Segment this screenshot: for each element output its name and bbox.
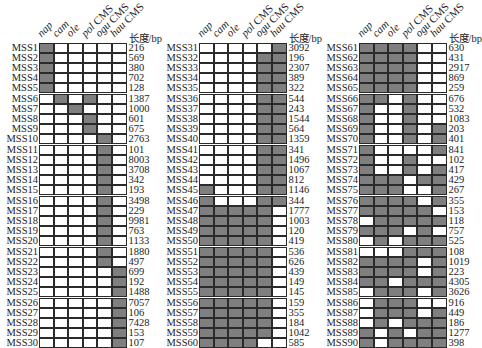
row-label: MSS1 (0, 43, 38, 53)
cell-present (228, 267, 243, 277)
cell-absent (54, 165, 69, 175)
cell-absent (97, 287, 112, 297)
cell-present (374, 43, 389, 53)
cell-present (388, 185, 403, 195)
length-value: 259 (449, 83, 465, 93)
cell-absent (199, 94, 214, 104)
cell-absent (243, 73, 258, 83)
cell-present (243, 328, 258, 338)
cell-absent (374, 328, 389, 338)
cell-absent (243, 175, 258, 185)
cell-absent (214, 185, 229, 195)
cell-absent (68, 277, 83, 287)
cell-absent (54, 43, 69, 53)
cell-absent (68, 175, 83, 185)
cell-absent (417, 63, 432, 73)
cell-present (272, 43, 287, 53)
cell-absent (39, 308, 54, 318)
cell-absent (83, 318, 98, 328)
cell-absent (54, 267, 69, 277)
cell-present (359, 165, 374, 175)
cell-present (228, 338, 243, 348)
cell-absent (272, 338, 287, 348)
cell-absent (243, 196, 258, 206)
cell-present (374, 236, 389, 246)
length-value: 101 (129, 145, 145, 155)
cell-absent (417, 257, 432, 267)
cell-present (374, 267, 389, 277)
cell-present (97, 206, 112, 216)
cell-absent (243, 114, 258, 124)
cell-present (359, 145, 374, 155)
cell-absent (68, 155, 83, 165)
cell-present (403, 267, 418, 277)
cell-present (112, 298, 127, 308)
cell-present (97, 196, 112, 206)
cell-present (97, 165, 112, 175)
cell-absent (359, 287, 374, 297)
cell-absent (54, 63, 69, 73)
cell-present (199, 338, 214, 348)
cell-present (388, 226, 403, 236)
cell-present (257, 53, 272, 63)
cell-absent (68, 308, 83, 318)
length-value: 1359 (289, 134, 310, 144)
cell-present (403, 287, 418, 297)
cell-absent (39, 145, 54, 155)
length-value: 585 (289, 338, 305, 348)
cell-absent (83, 43, 98, 53)
cell-present (97, 257, 112, 267)
cell-absent (359, 216, 374, 226)
length-value: 419 (289, 236, 305, 246)
cell-absent (403, 185, 418, 195)
cell-absent (39, 287, 54, 297)
cell-absent (214, 94, 229, 104)
cell-present (97, 185, 112, 195)
cell-absent (54, 277, 69, 287)
row-label: MSS20 (0, 236, 38, 246)
cell-absent (112, 226, 127, 236)
cell-absent (39, 196, 54, 206)
cell-absent (214, 196, 229, 206)
cell-present (359, 94, 374, 104)
length-value: 544 (289, 94, 305, 104)
row-label: MSS41 (160, 145, 198, 155)
cell-absent (112, 145, 127, 155)
length-value: 355 (449, 196, 465, 206)
cell-absent (359, 236, 374, 246)
cell-absent (68, 114, 83, 124)
cell-present (228, 247, 243, 257)
cell-absent (199, 134, 214, 144)
cell-absent (272, 308, 287, 318)
cell-present (214, 267, 229, 277)
row-label: MSS70 (320, 134, 358, 144)
cell-absent (214, 104, 229, 114)
cell-present (214, 257, 229, 267)
cell-absent (243, 63, 258, 73)
cell-present (388, 328, 403, 338)
cell-present (432, 185, 447, 195)
cell-absent (112, 257, 127, 267)
cell-present (214, 226, 229, 236)
cell-absent (54, 196, 69, 206)
cell-present (243, 257, 258, 267)
cell-absent (68, 165, 83, 175)
cell-present (257, 175, 272, 185)
cell-absent (388, 114, 403, 124)
cell-present (272, 155, 287, 165)
cell-absent (83, 53, 98, 63)
cell-absent (39, 104, 54, 114)
length-value: 1488 (129, 287, 150, 297)
cell-absent (214, 73, 229, 83)
cell-present (257, 308, 272, 318)
length-value: 676 (449, 94, 465, 104)
cell-present (272, 196, 287, 206)
cell-absent (54, 53, 69, 63)
cell-present (388, 83, 403, 93)
row-label: MSS45 (160, 185, 198, 195)
cell-absent (97, 43, 112, 53)
row-label: MSS30 (0, 338, 38, 348)
cell-present (374, 73, 389, 83)
length-value: 1387 (129, 94, 150, 104)
cell-absent (83, 83, 98, 93)
